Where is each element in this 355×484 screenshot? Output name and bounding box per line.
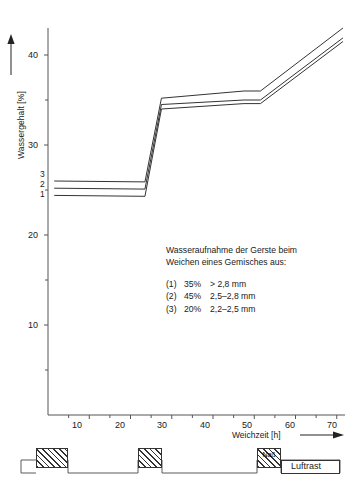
legend-item-percent: 20%: [184, 303, 210, 315]
series-line-1: [54, 42, 343, 197]
annotation-line-2: Weichen eines Gemisches aus:: [166, 256, 297, 268]
series-line-3: [54, 28, 343, 182]
legend-item-range: 2,2–2,5 mm: [210, 303, 255, 315]
legend-item-2: (2)45%2,5–2,8 mm: [166, 290, 297, 302]
legend-item-range: 2,5–2,8 mm: [210, 290, 255, 302]
timeline-wet-block-3: Naß: [257, 448, 281, 468]
legend-item-index: (2): [166, 290, 184, 302]
legend-item-1: (1)35%> 2,8 mm: [166, 278, 297, 290]
plot-area: [0, 0, 355, 440]
timeline-wet-block-2: [138, 448, 162, 468]
legend-item-percent: 45%: [184, 290, 210, 302]
legend-item-index: (3): [166, 303, 184, 315]
timeline-wet-block-1: [36, 448, 68, 468]
process-timeline: Naß Luftrast: [0, 440, 355, 484]
legend-rows: (1)35%> 2,8 mm(2)45%2,5–2,8 mm(3)20%2,2–…: [166, 278, 297, 315]
timeline-air-rest-label: Luftrast: [291, 461, 321, 472]
legend-item-range: > 2,8 mm: [210, 278, 246, 290]
legend-item-percent: 35%: [184, 278, 210, 290]
legend-item-index: (1): [166, 278, 184, 290]
timeline-wet-label: Naß: [258, 450, 280, 459]
annotation-block: Wasseraufnahme der Gerste beim Weichen e…: [166, 244, 297, 315]
chart-root: Wassergehalt [%] 40 30 20 10 10 20 30 40…: [0, 0, 355, 484]
annotation-line-1: Wasseraufnahme der Gerste beim: [166, 244, 297, 256]
legend-item-3: (3)20%2,2–2,5 mm: [166, 303, 297, 315]
